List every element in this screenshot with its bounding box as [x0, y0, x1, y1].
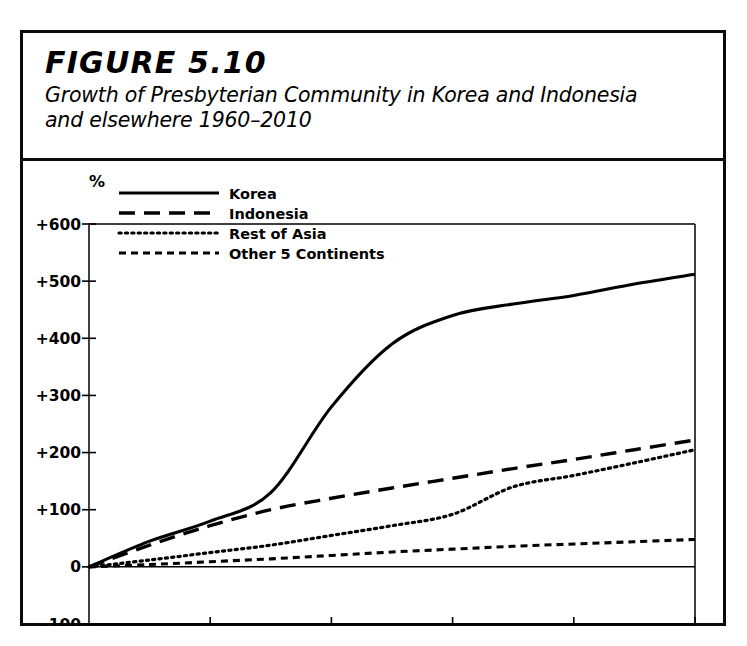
y-axis-tick-labels: +600+500+400+300+200+1000-100	[36, 216, 82, 627]
y-axis-unit-label: %	[89, 172, 105, 191]
legend-label-indonesia: Indonesia	[229, 206, 309, 222]
y-tick-label: +500	[36, 273, 82, 291]
line-chart-svg: % +600+500+400+300+200+1000-100 19601970…	[23, 161, 723, 626]
legend-label-other-5-continents: Other 5 Continents	[229, 246, 385, 262]
chart-plot-region: % +600+500+400+300+200+1000-100 19601970…	[23, 161, 723, 626]
axis-tick-marks	[82, 224, 695, 626]
series-line-rest-of-asia	[89, 450, 695, 567]
figure-title-block: FIGURE 5.10 Growth of Presbyterian Commu…	[23, 33, 723, 161]
legend-label-rest-of-asia: Rest of Asia	[229, 226, 327, 242]
series-line-other-5-continents	[89, 539, 695, 566]
figure-caption-line-2: and elsewhere 1960–2010	[45, 108, 705, 133]
y-tick-label: +600	[36, 216, 82, 234]
y-tick-label: -100	[42, 616, 81, 627]
y-tick-label: +100	[36, 501, 82, 519]
chart-series-group	[89, 274, 695, 567]
figure-caption-line-1: Growth of Presbyterian Community in Kore…	[45, 83, 705, 108]
series-line-korea	[89, 274, 695, 567]
figure-number-label: FIGURE 5.10	[45, 47, 705, 79]
legend-label-korea: Korea	[229, 186, 277, 202]
y-tick-label: 0	[70, 558, 81, 576]
figure-container: FIGURE 5.10 Growth of Presbyterian Commu…	[20, 30, 726, 626]
figure-page: FIGURE 5.10 Growth of Presbyterian Commu…	[0, 0, 747, 646]
y-tick-label: +200	[36, 444, 82, 462]
y-tick-label: +300	[36, 387, 82, 405]
series-line-indonesia	[89, 440, 695, 567]
y-tick-label: +400	[36, 330, 82, 348]
